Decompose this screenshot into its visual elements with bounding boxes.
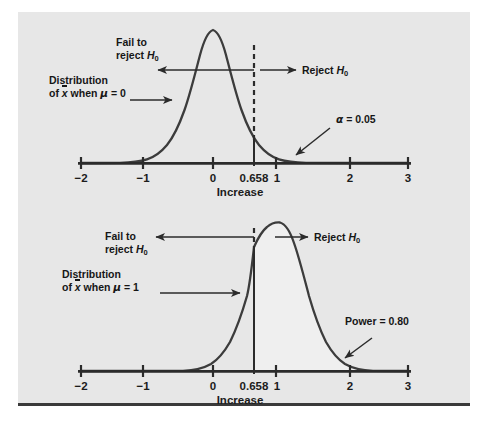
svg-text:0.658: 0.658 — [240, 172, 269, 184]
svg-text:2: 2 — [347, 380, 353, 392]
top-alpha-pointer-arrow — [296, 128, 330, 155]
top-axis-title: Increase — [217, 186, 264, 198]
bottom-reject-label: Reject H0 — [314, 231, 360, 244]
svg-text:0: 0 — [210, 172, 216, 184]
bottom-axis-tick-labels: −2 −1 0 0.658 1 2 3 — [74, 380, 411, 392]
top-fail-to-reject-label: Fail to reject H0 — [116, 36, 159, 62]
svg-text:3: 3 — [405, 380, 411, 392]
svg-text:3: 3 — [405, 172, 411, 184]
x-bar-symbol: x — [75, 281, 81, 294]
svg-text:−1: −1 — [136, 172, 150, 184]
svg-text:1: 1 — [274, 380, 281, 392]
bottom-axis-title: Increase — [217, 394, 264, 406]
top-reject-label: Reject H0 — [302, 64, 348, 77]
top-axis-tick-labels: −2 −1 0 0.658 1 2 3 — [74, 172, 411, 184]
svg-text:−2: −2 — [74, 172, 87, 184]
svg-text:1: 1 — [274, 172, 281, 184]
x-bar-symbol: x — [62, 87, 68, 100]
power-figure: −2 −1 0 0.658 1 2 3 Increase — [0, 0, 485, 426]
mu-symbol: μ — [113, 281, 121, 293]
svg-text:−2: −2 — [74, 380, 87, 392]
svg-text:0: 0 — [210, 380, 216, 392]
bottom-power-pointer-arrow — [345, 338, 372, 358]
mu-symbol: μ — [100, 87, 108, 99]
svg-text:2: 2 — [347, 172, 353, 184]
figure-svg: −2 −1 0 0.658 1 2 3 Increase — [0, 0, 485, 426]
top-distribution-label: Distribution of x when μ = 0 — [49, 74, 126, 100]
top-alpha-label: α = 0.05 — [336, 113, 376, 126]
bottom-distribution-label: Distribution of x when μ = 1 — [62, 268, 139, 294]
svg-text:0.658: 0.658 — [240, 380, 269, 392]
bottom-fail-to-reject-label: Fail to reject H0 — [105, 230, 148, 256]
bottom-power-label: Power = 0.80 — [345, 315, 409, 328]
svg-text:−1: −1 — [136, 380, 150, 392]
